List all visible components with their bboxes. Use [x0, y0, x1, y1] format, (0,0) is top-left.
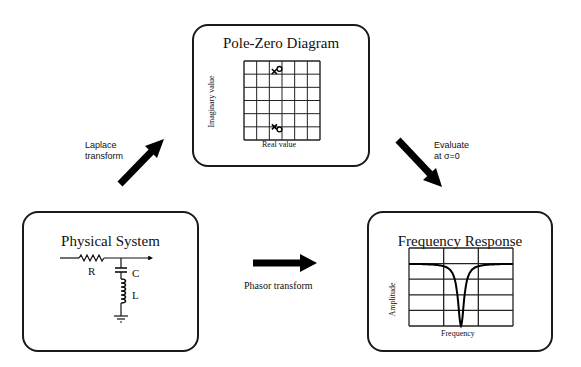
evaluate-arrow [398, 140, 442, 187]
zero-marker [277, 67, 282, 72]
frequency-response-grid [409, 248, 513, 326]
pole-marker [272, 69, 277, 74]
pole-zero-marks [272, 67, 282, 132]
inductor-symbol [121, 279, 126, 303]
diagram-graphics [0, 0, 581, 367]
phasor-arrow [253, 254, 317, 272]
resistor-symbol [79, 255, 104, 261]
circuit-schematic [60, 255, 150, 322]
laplace-arrow [120, 139, 164, 184]
zero-marker [277, 127, 282, 132]
